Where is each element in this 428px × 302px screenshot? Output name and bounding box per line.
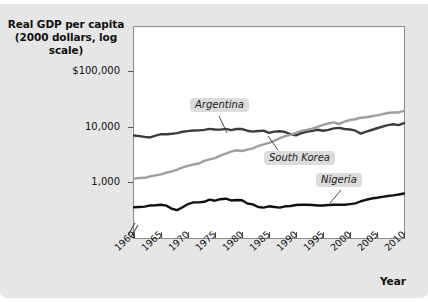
ytick-label-1000: 1,000: [28, 176, 120, 187]
chart-plot-svg: [133, 26, 405, 239]
series-label-argentina: Argentina: [190, 98, 249, 112]
chart-title-line1: Real GDP per capita: [8, 18, 124, 30]
ytick-label-100000: $100,000: [28, 65, 120, 76]
series-line-south-korea: [134, 111, 404, 179]
xtick-label-1960: 1960: [112, 229, 137, 254]
chart-title-line2: (2000 dollars, log scale): [4, 31, 128, 57]
chart-title: Real GDP per capita (2000 dollars, log s…: [4, 18, 128, 57]
xaxis-title: Year: [380, 275, 406, 287]
series-line-nigeria: [134, 194, 404, 211]
ytick-label-10000: 10,000: [28, 121, 120, 132]
figure-card: Real GDP per capita (2000 dollars, log s…: [0, 4, 428, 298]
series-line-argentina: [134, 123, 404, 137]
series-label-nigeria: Nigeria: [316, 173, 362, 187]
series-label-south-korea: South Korea: [264, 151, 335, 165]
